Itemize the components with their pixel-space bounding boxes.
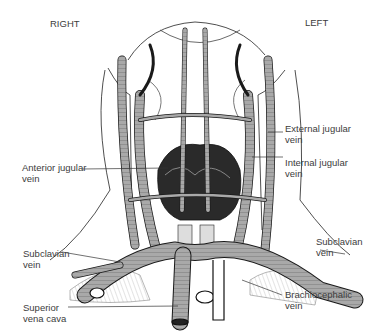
label-brachiocephalic-vein: Brachiocephalic vein bbox=[285, 289, 352, 311]
label-subclavian-vein-left: Subclavian vein bbox=[316, 236, 362, 258]
label-external-jugular-vein: External jugular vein bbox=[285, 123, 351, 145]
orientation-left-label: LEFT bbox=[305, 17, 328, 28]
orientation-right-label: RIGHT bbox=[50, 18, 80, 29]
label-anterior-jugular-vein: Anterior jugular vein bbox=[22, 162, 86, 184]
label-subclavian-vein-right: Subclavian vein bbox=[23, 248, 69, 270]
label-superior-vena-cava: Superior vena cava bbox=[23, 302, 66, 324]
label-internal-jugular-vein: Internal jugular vein bbox=[285, 157, 348, 179]
